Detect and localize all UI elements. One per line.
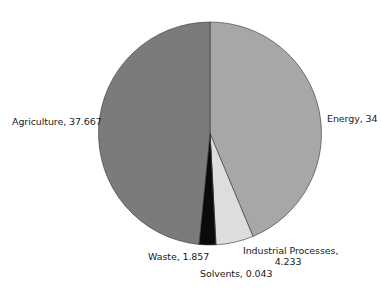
label-agriculture: Agriculture, 37.667 <box>12 116 102 127</box>
label-waste: Waste, 1.857 <box>148 251 209 262</box>
pie-slice-agriculture <box>99 22 210 244</box>
label-industrial-line2: 4.233 <box>243 256 333 267</box>
label-solvents: Solvents, 0.043 <box>200 268 272 279</box>
label-industrial-line1: Industrial Processes, <box>243 245 333 256</box>
pie-slices <box>99 22 322 245</box>
label-energy: Energy, 34 <box>327 113 377 124</box>
label-industrial-processes: Industrial Processes, 4.233 <box>243 245 333 267</box>
